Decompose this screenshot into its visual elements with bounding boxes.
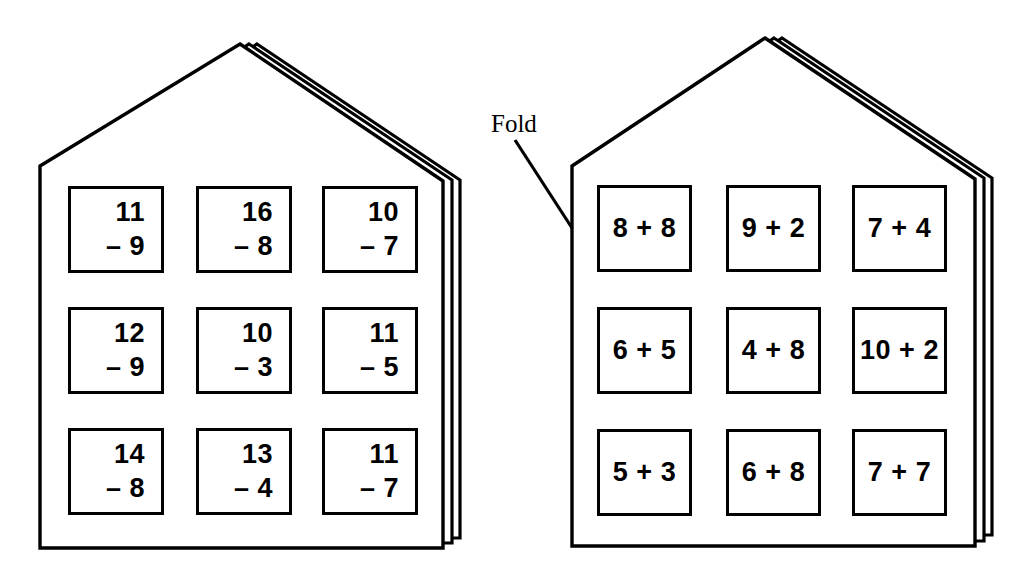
subtrahend: – 4 [234,475,273,503]
fact-cell[interactable]: 11 – 5 [322,307,418,394]
addition-expression: 10 + 2 [860,335,939,366]
fact-cell[interactable]: 8 + 8 [597,185,692,272]
subtrahend: – 8 [234,233,273,261]
fact-cell[interactable]: 10 – 3 [196,307,292,394]
fold-leader-line [515,140,572,228]
fact-cell[interactable]: 16 – 8 [196,186,292,273]
subtrahend: – 3 [234,354,273,382]
minuend: 13 [242,441,273,469]
addition-expression: 7 + 4 [868,213,931,244]
fact-cell[interactable]: 7 + 4 [852,185,947,272]
subtrahend: – 7 [360,475,399,503]
subtrahend: – 7 [360,233,399,261]
addition-expression: 8 + 8 [613,213,676,244]
addition-expression: 9 + 2 [742,213,805,244]
fact-cell[interactable]: 7 + 7 [852,429,947,516]
fact-cell[interactable]: 6 + 5 [597,307,692,394]
minuend: 12 [114,320,145,348]
fold-label: Fold [491,110,537,138]
fact-cell[interactable]: 13 – 4 [196,428,292,515]
subtrahend: – 9 [106,233,145,261]
addition-expression: 6 + 5 [613,335,676,366]
worksheet-page: Fold 11 – 9 16 – 8 10 – 7 12 – 9 10 – 3 … [0,0,1030,582]
addition-expression: 7 + 7 [868,457,931,488]
addition-expression: 6 + 8 [742,457,805,488]
fact-cell[interactable]: 4 + 8 [726,307,821,394]
minuend: 11 [369,441,399,469]
addition-expression: 5 + 3 [613,457,676,488]
minuend: 10 [368,199,399,227]
fact-cell[interactable]: 14 – 8 [68,428,164,515]
minuend: 14 [114,441,145,469]
fact-cell[interactable]: 10 – 7 [322,186,418,273]
minuend: 10 [242,320,273,348]
fact-cell[interactable]: 12 – 9 [68,307,164,394]
fact-cell[interactable]: 10 + 2 [852,307,947,394]
fact-cell[interactable]: 5 + 3 [597,429,692,516]
fact-cell[interactable]: 9 + 2 [726,185,821,272]
fact-cell[interactable]: 6 + 8 [726,429,821,516]
subtrahend: – 5 [360,354,399,382]
subtrahend: – 9 [106,354,145,382]
minuend: 11 [369,320,399,348]
minuend: 16 [242,199,273,227]
addition-expression: 4 + 8 [742,335,805,366]
fact-cell[interactable]: 11 – 7 [322,428,418,515]
minuend: 11 [115,199,145,227]
subtrahend: – 8 [106,475,145,503]
fact-cell[interactable]: 11 – 9 [68,186,164,273]
